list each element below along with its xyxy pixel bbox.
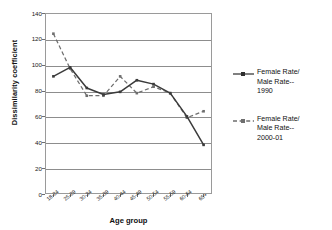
data-point (202, 144, 205, 147)
data-point (85, 87, 88, 90)
y-tick-mark-0 (42, 194, 45, 195)
data-point (102, 93, 105, 96)
data-point (169, 92, 172, 95)
series-1990-line (53, 67, 203, 145)
chart-figure: Dissimilarity coefficient 140 120 100 80… (0, 0, 332, 230)
series-layer (45, 13, 212, 194)
series-1990 (52, 66, 205, 146)
data-point (69, 66, 72, 69)
legend-item-1990[interactable]: Female Rate/ Male Rate-- 1990 (233, 68, 331, 97)
x-axis-title: Age group (45, 216, 212, 225)
y-tick-label-120: 120 (2, 36, 42, 42)
legend-item-1990-line2: Male Rate-- (257, 78, 331, 88)
series-1990-markers (52, 66, 205, 146)
legend-swatch-dashed-icon (233, 118, 254, 124)
data-point (202, 110, 205, 113)
legend-item-2000-01-line3: 2000-01 (257, 134, 331, 144)
legend-item-1990-line1: Female Rate/ (257, 68, 331, 78)
y-tick-label-20: 20 (2, 166, 42, 172)
data-point (52, 32, 55, 35)
series-2000-01 (52, 32, 205, 119)
data-point (152, 83, 155, 86)
legend-item-1990-line3: 1990 (257, 87, 331, 97)
x-tick-label-65plus: 65+ (198, 192, 209, 202)
data-point (136, 92, 139, 95)
y-tick-label-80: 80 (2, 88, 42, 94)
legend-item-2000-01-line2: Male Rate-- (257, 124, 331, 134)
data-point (119, 75, 122, 78)
data-point (85, 94, 88, 97)
legend-item-2000-01[interactable]: Female Rate/ Male Rate-- 2000-01 (233, 115, 331, 144)
chart-legend: Female Rate/ Male Rate-- 1990 Female Rat… (233, 68, 331, 156)
legend-swatch-solid-icon (233, 71, 254, 77)
y-tick-label-100: 100 (2, 62, 42, 68)
y-tick-label-40: 40 (2, 140, 42, 146)
data-point (152, 85, 155, 88)
y-tick-label-0: 0 (2, 192, 42, 198)
legend-item-2000-01-line1: Female Rate/ (257, 115, 331, 125)
y-tick-label-60: 60 (2, 114, 42, 120)
data-point (52, 75, 55, 78)
y-tick-label-140: 140 (2, 11, 42, 17)
data-point (136, 79, 139, 82)
data-point (186, 115, 189, 118)
data-point (119, 91, 122, 94)
